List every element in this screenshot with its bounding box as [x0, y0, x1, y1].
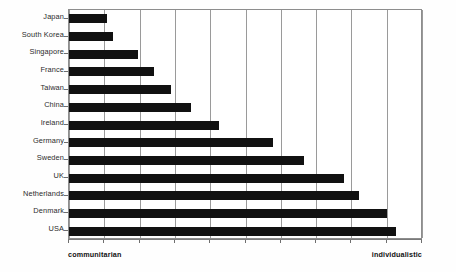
bar	[69, 32, 113, 41]
y-axis-tick	[64, 53, 68, 54]
bar	[69, 67, 154, 76]
bar	[69, 121, 219, 130]
bar	[69, 191, 359, 200]
plot-area	[68, 9, 422, 239]
y-axis-label: UK	[0, 172, 64, 180]
axis-caption-individualistic: individualistic	[372, 250, 422, 259]
bars-layer	[69, 10, 421, 238]
y-axis-label: France	[0, 66, 64, 74]
y-axis-tick	[64, 106, 68, 107]
y-axis-label: Ireland	[0, 119, 64, 127]
bar	[69, 209, 387, 218]
bar	[69, 174, 344, 183]
axis-caption-communitarian: communitarian	[68, 250, 121, 259]
y-axis-label: Netherlands	[0, 190, 64, 198]
bar	[69, 156, 304, 165]
y-axis-tick	[64, 212, 68, 213]
y-axis-label: Japan	[0, 13, 64, 21]
y-axis-tick	[64, 195, 68, 196]
y-axis-label: USA	[0, 225, 64, 233]
y-axis-label: Sweden	[0, 154, 64, 162]
y-axis-label: China	[0, 101, 64, 109]
y-axis-tick	[64, 177, 68, 178]
y-axis-tick	[64, 36, 68, 37]
y-axis-label: South Korea	[0, 31, 64, 39]
bar	[69, 103, 191, 112]
y-axis-label: Singapore	[0, 48, 64, 56]
y-axis-label: Germany	[0, 137, 64, 145]
y-axis-category-labels: JapanSouth KoreaSingaporeFranceTaiwanChi…	[0, 8, 64, 240]
bar	[69, 227, 396, 236]
bar	[69, 85, 171, 94]
y-axis-tick	[64, 89, 68, 90]
y-axis-tick	[64, 124, 68, 125]
y-axis-tick	[64, 230, 68, 231]
bar	[69, 138, 273, 147]
bar	[69, 50, 138, 59]
y-axis-label: Taiwan	[0, 84, 64, 92]
x-axis-line	[68, 239, 422, 240]
gridline	[422, 10, 423, 238]
y-axis-tick	[64, 71, 68, 72]
y-axis-tick	[64, 142, 68, 143]
bar	[69, 14, 107, 23]
bar-chart: JapanSouth KoreaSingaporeFranceTaiwanChi…	[0, 0, 456, 272]
y-axis-label: Denmark	[0, 207, 64, 215]
y-axis-tick	[64, 18, 68, 19]
y-axis-tick	[64, 159, 68, 160]
